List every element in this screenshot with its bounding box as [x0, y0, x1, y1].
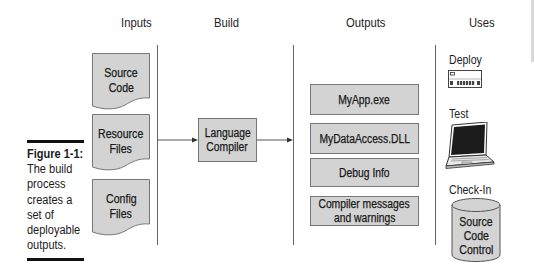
- use-label-checkin: Check-In: [449, 183, 491, 197]
- use-label-deploy: Deploy: [449, 53, 482, 67]
- compiler-label-line2: Compiler: [207, 140, 248, 154]
- divider-build-outputs: [293, 45, 294, 245]
- column-header-outputs: Outputs: [346, 16, 385, 30]
- output-label-line1: Compiler messages: [319, 197, 410, 211]
- divider-outputs-uses: [435, 45, 436, 245]
- input-label-line1: Config: [106, 192, 137, 207]
- cylinder-label-line2: Code: [463, 229, 488, 243]
- caption-line: creates a: [27, 193, 89, 208]
- output-label-line2: and warnings: [334, 211, 395, 225]
- input-label-line2: Files: [110, 142, 132, 157]
- column-header-build: Build: [214, 16, 239, 30]
- server-rack-icon: [448, 70, 482, 88]
- figure-caption: Figure 1-1: The build process creates a …: [27, 147, 97, 253]
- input-resource-files: Resource Files: [92, 114, 150, 172]
- cylinder-label-line1: Source: [459, 215, 492, 229]
- output-label: Debug Info: [339, 166, 389, 180]
- input-label-line1: Source: [104, 66, 137, 81]
- output-mydataaccess-dll: MyDataAccess.DLL: [310, 123, 419, 154]
- caption-line: process: [27, 177, 89, 192]
- source-code-control-cylinder: Source Code Control: [451, 198, 501, 263]
- input-label-line2: Code: [108, 81, 133, 96]
- input-config-files: Config Files: [92, 179, 150, 237]
- compiler-label-line1: Language: [205, 126, 251, 140]
- column-header-uses: Uses: [469, 16, 495, 30]
- input-label-line1: Resource: [98, 127, 143, 142]
- caption-line: outputs.: [27, 238, 89, 253]
- arrow-inputs-to-compiler: [157, 135, 199, 145]
- cylinder-label-line3: Control: [459, 243, 493, 257]
- caption-line: set of: [27, 208, 89, 223]
- caption-top-rule: [27, 140, 84, 143]
- output-label: MyApp.exe: [339, 93, 391, 107]
- divider-inputs-build: [157, 45, 158, 245]
- caption-line: deployable: [27, 223, 89, 238]
- figure-label: Figure 1-1:: [27, 147, 89, 162]
- use-label-test: Test: [449, 107, 468, 121]
- caption-line: The build: [27, 162, 89, 177]
- input-source-code: Source Code: [92, 53, 150, 111]
- caption-bottom-rule: [27, 258, 84, 261]
- arrow-compiler-to-outputs: [256, 135, 294, 145]
- input-label-line2: Files: [110, 207, 132, 222]
- laptop-icon: [444, 122, 496, 170]
- build-language-compiler: Language Compiler: [198, 118, 257, 162]
- output-debug-info: Debug Info: [310, 158, 419, 187]
- output-myapp-exe: MyApp.exe: [310, 84, 419, 115]
- output-compiler-messages: Compiler messages and warnings: [310, 196, 419, 226]
- output-label: MyDataAccess.DLL: [319, 132, 410, 146]
- column-header-inputs: Inputs: [121, 16, 152, 30]
